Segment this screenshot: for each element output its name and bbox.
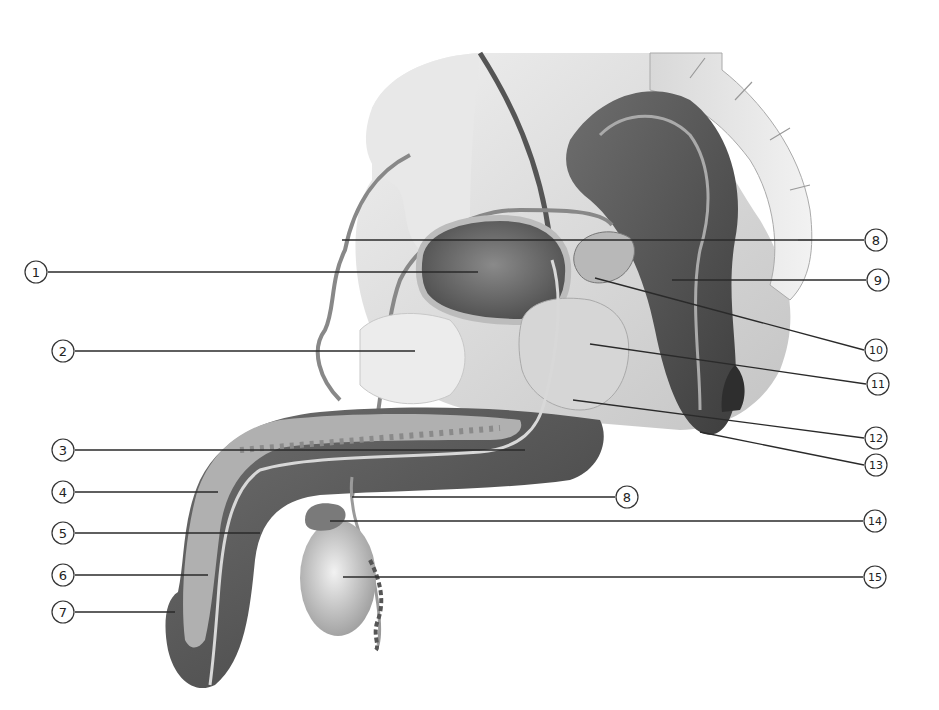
callout-7: 7 <box>52 601 175 623</box>
callout-label-5: 5 <box>59 526 67 541</box>
callout-label-1: 1 <box>32 265 40 280</box>
pubic-symphysis <box>360 313 465 403</box>
callout-label-8-upper: 8 <box>872 233 880 248</box>
callout-label-15: 15 <box>868 571 882 584</box>
callout-label-8-lower: 8 <box>623 490 631 505</box>
callout-label-13: 13 <box>869 459 883 472</box>
callout-label-4: 4 <box>59 485 67 500</box>
callout-14: 14 <box>330 510 886 532</box>
callout-label-9: 9 <box>874 273 882 288</box>
callout-label-3: 3 <box>59 443 67 458</box>
leader-line-13 <box>700 432 864 465</box>
anatomy-diagram: 1 2 3 4 5 6 7 <box>0 0 939 710</box>
callout-label-12: 12 <box>869 432 883 445</box>
callout-label-7: 7 <box>59 605 67 620</box>
callout-15: 15 <box>343 566 886 588</box>
callout-label-2: 2 <box>59 344 67 359</box>
callout-label-10: 10 <box>869 344 883 357</box>
testis <box>300 477 381 650</box>
callout-label-14: 14 <box>868 515 882 528</box>
callout-13: 13 <box>700 432 887 476</box>
callout-label-11: 11 <box>871 378 885 391</box>
callout-label-6: 6 <box>59 568 67 583</box>
